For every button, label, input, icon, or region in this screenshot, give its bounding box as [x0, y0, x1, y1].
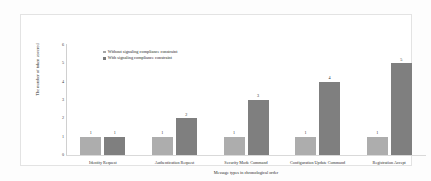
- bar-value-label: 1: [295, 131, 316, 135]
- x-axis-title: Message types in chronological order: [66, 170, 426, 175]
- bar: [248, 100, 269, 155]
- bar: [295, 137, 316, 155]
- y-tick-label: 3: [52, 98, 64, 102]
- x-axis-category-label: Registration Accept: [329, 160, 431, 165]
- plot-area: 1112131415: [67, 45, 425, 155]
- bar-group: 14: [295, 45, 340, 155]
- y-tick-label: 2: [52, 116, 64, 120]
- bar-value-label: 1: [152, 131, 173, 135]
- y-tick-label: 1: [52, 135, 64, 139]
- bar: [176, 118, 197, 155]
- bar-group: 12: [152, 45, 197, 155]
- bar-group: 15: [367, 45, 412, 155]
- y-tick-label: 4: [52, 80, 64, 84]
- bar-group: 11: [80, 45, 125, 155]
- y-axis-title: The number of token covered: [35, 18, 40, 122]
- bar-value-label: 3: [248, 94, 269, 98]
- bar-value-label: 1: [367, 131, 388, 135]
- bar-value-label: 4: [319, 76, 340, 80]
- bar: [80, 137, 101, 155]
- bar: [319, 82, 340, 155]
- bar-value-label: 1: [104, 131, 125, 135]
- bar-value-label: 5: [391, 58, 412, 62]
- y-axis-ticks: 0123456: [49, 45, 64, 155]
- bar-value-label: 1: [80, 131, 101, 135]
- x-axis-line: [66, 155, 426, 156]
- bar-value-label: 1: [224, 131, 245, 135]
- bar-value-label: 2: [176, 113, 197, 117]
- bar-group: 13: [224, 45, 269, 155]
- bar: [152, 137, 173, 155]
- y-tick-label: 6: [52, 43, 64, 47]
- bar: [104, 137, 125, 155]
- bar: [224, 137, 245, 155]
- y-tick-label: 5: [52, 61, 64, 65]
- chart-screenshot: 0123456 The number of token covered With…: [0, 0, 431, 181]
- figure-frame: 0123456 The number of token covered With…: [20, 14, 412, 166]
- bar: [391, 63, 412, 155]
- y-tick-label: 0: [52, 153, 64, 157]
- bar: [367, 137, 388, 155]
